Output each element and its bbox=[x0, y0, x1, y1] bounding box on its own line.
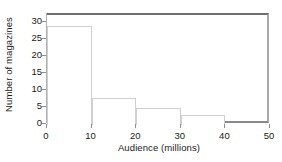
x-tick-label: 50 bbox=[254, 131, 282, 141]
x-tick-label: 0 bbox=[31, 131, 61, 141]
x-tick-label: 30 bbox=[165, 131, 195, 141]
x-tick-mark bbox=[269, 124, 270, 128]
x-tick-mark bbox=[91, 124, 92, 128]
x-tick-mark bbox=[135, 124, 136, 128]
y-tick-mark bbox=[42, 21, 46, 22]
y-tick-mark bbox=[42, 106, 46, 107]
x-tick-mark bbox=[180, 124, 181, 128]
y-tick-mark bbox=[42, 38, 46, 39]
x-tick-mark bbox=[224, 124, 225, 128]
y-tick-mark bbox=[42, 123, 46, 124]
x-tick-label: 20 bbox=[120, 131, 150, 141]
x-tick-label: 10 bbox=[76, 131, 106, 141]
x-tick-mark bbox=[46, 124, 47, 128]
x-tick-label: 40 bbox=[209, 131, 239, 141]
y-tick-mark bbox=[42, 55, 46, 56]
histogram-chart: Number of magazines 051015202530 0102030… bbox=[0, 0, 282, 162]
y-tick-mark bbox=[42, 89, 46, 90]
x-axis-title: Audience (millions) bbox=[48, 142, 270, 153]
x-axis-tick-labels: 01020304050 bbox=[0, 0, 282, 162]
y-tick-mark bbox=[42, 72, 46, 73]
